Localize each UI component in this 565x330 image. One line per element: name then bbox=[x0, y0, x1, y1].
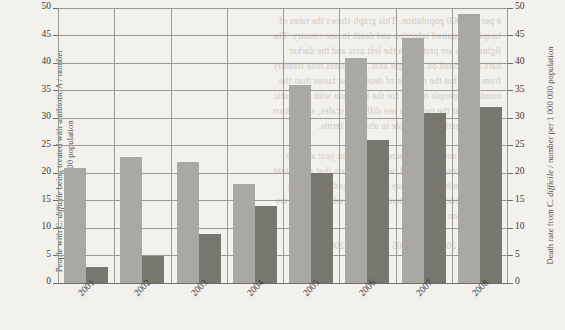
y-axis-title-right: Death rate from C. difficile / number pe… bbox=[545, 31, 556, 281]
bar bbox=[311, 173, 333, 283]
plot-area: 0055101015152020252530303535404045455050… bbox=[58, 8, 508, 283]
y-tick-label-right: 5 bbox=[515, 250, 520, 260]
y-tick-label-right: 10 bbox=[515, 222, 525, 232]
bar bbox=[480, 107, 502, 283]
bar bbox=[233, 184, 255, 283]
y-tick-label-left: 40 bbox=[42, 57, 52, 67]
y-tick-label-left: 45 bbox=[42, 30, 52, 40]
y-tick-label-right: 45 bbox=[515, 30, 525, 40]
y-tick-label-left: 10 bbox=[42, 222, 52, 232]
bar-group bbox=[396, 8, 452, 283]
y-tick-label-left: 50 bbox=[42, 2, 52, 12]
y-tick-label-left: 30 bbox=[42, 112, 52, 122]
y-tick-mark-right bbox=[508, 255, 513, 256]
y-tick-mark-right bbox=[508, 173, 513, 174]
bar bbox=[255, 206, 277, 283]
y-tick-label-left: 20 bbox=[42, 167, 52, 177]
y-tick-label-right: 25 bbox=[515, 140, 525, 150]
y-tick-mark-right bbox=[508, 145, 513, 146]
y-tick-label-right: 0 bbox=[515, 277, 520, 287]
bar-group bbox=[171, 8, 227, 283]
y-tick-label-right: 50 bbox=[515, 2, 525, 12]
bar-group bbox=[227, 8, 283, 283]
y-tick-label-right: 30 bbox=[515, 112, 525, 122]
bar-group bbox=[58, 8, 114, 283]
y-tick-label-right: 40 bbox=[515, 57, 525, 67]
y-tick-label-right: 35 bbox=[515, 85, 525, 95]
y-tick-mark-right bbox=[508, 200, 513, 201]
bar bbox=[458, 14, 480, 284]
bar bbox=[120, 157, 142, 284]
bar bbox=[289, 85, 311, 283]
y-tick-mark-right bbox=[508, 283, 513, 284]
bar bbox=[367, 140, 389, 283]
bar-group bbox=[114, 8, 170, 283]
bar bbox=[402, 38, 424, 283]
bar-group bbox=[339, 8, 395, 283]
y-tick-mark-right bbox=[508, 63, 513, 64]
y-tick-mark-right bbox=[508, 228, 513, 229]
y-tick-mark-right bbox=[508, 90, 513, 91]
y-tick-label-left: 25 bbox=[42, 140, 52, 150]
bar-group bbox=[283, 8, 339, 283]
y-tick-label-left: 35 bbox=[42, 85, 52, 95]
y-tick-mark-right bbox=[508, 8, 513, 9]
y-tick-label-left: 0 bbox=[46, 277, 51, 287]
y-tick-mark-right bbox=[508, 118, 513, 119]
y-tick-mark-right bbox=[508, 35, 513, 36]
y-tick-label-left: 5 bbox=[46, 250, 51, 260]
y-tick-label-right: 15 bbox=[515, 195, 525, 205]
bar bbox=[345, 58, 367, 284]
y-tick-label-left: 15 bbox=[42, 195, 52, 205]
y-tick-label-right: 20 bbox=[515, 167, 525, 177]
bar bbox=[64, 168, 86, 284]
bar bbox=[424, 113, 446, 284]
bar-group bbox=[452, 8, 508, 283]
bar bbox=[199, 234, 221, 284]
bar-chart: People with C. difficile being treated w… bbox=[0, 0, 565, 330]
bar bbox=[177, 162, 199, 283]
